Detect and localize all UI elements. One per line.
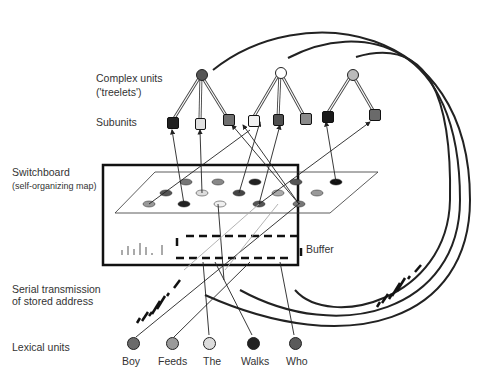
serial-transmission-label-1: Serial transmission bbox=[12, 283, 101, 295]
subunit-2-1 bbox=[248, 115, 260, 127]
subunit-1-3 bbox=[223, 114, 235, 126]
serial-transmission-label-2: of stored address bbox=[12, 295, 93, 307]
complex-unit-node-2 bbox=[275, 67, 287, 79]
serial-bars-left bbox=[137, 280, 180, 323]
lexical-unit-boy-label: Boy bbox=[122, 355, 140, 367]
complex-units-label: Complex units bbox=[96, 72, 163, 84]
subunits-label: Subunits bbox=[96, 116, 137, 128]
lexical-unit-feeds-node bbox=[166, 337, 179, 350]
treelets-label: ('treelets') bbox=[96, 86, 141, 98]
connection-lines bbox=[136, 122, 370, 337]
self-organizing-map-plane bbox=[115, 172, 378, 213]
lexical-unit-who-label: Who bbox=[286, 355, 308, 367]
subunit-3-1 bbox=[322, 111, 334, 123]
subunit-2-3 bbox=[300, 113, 312, 125]
buffer-bars bbox=[122, 243, 162, 255]
lexical-unit-walks-label: Walks bbox=[241, 355, 269, 367]
treelet-architecture-diagram: Complex units ('treelets') Subunits Swit… bbox=[0, 0, 491, 377]
lexical-unit-walks-node bbox=[247, 337, 260, 350]
complex-unit-node-1 bbox=[196, 69, 208, 81]
complex-unit-node-3 bbox=[347, 69, 359, 81]
lexical-unit-the-node bbox=[203, 337, 216, 350]
subunit-1-1 bbox=[167, 117, 179, 129]
serial-bars-right bbox=[377, 265, 421, 307]
switchboard-label: Switchboard bbox=[12, 166, 70, 178]
lexical-units-label: Lexical units bbox=[12, 341, 70, 353]
lexical-unit-who-node bbox=[289, 337, 302, 350]
lexical-unit-the-label: The bbox=[203, 355, 221, 367]
lexical-unit-feeds-label: Feeds bbox=[158, 355, 187, 367]
subunit-1-2 bbox=[195, 118, 206, 130]
lexical-unit-boy-node bbox=[127, 337, 140, 350]
buffer-label: Buffer bbox=[306, 243, 334, 255]
buffer-box bbox=[176, 236, 301, 258]
switchboard-sublabel: (self-organizing map) bbox=[12, 180, 97, 192]
subunit-2-2 bbox=[273, 114, 284, 126]
subunit-3-2 bbox=[369, 109, 381, 121]
map-nodes bbox=[143, 179, 342, 207]
